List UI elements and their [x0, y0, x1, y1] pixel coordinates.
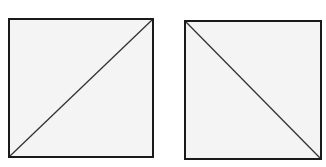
- square-left: [9, 19, 153, 157]
- square-right: [185, 21, 321, 159]
- diagram-canvas: [0, 0, 326, 167]
